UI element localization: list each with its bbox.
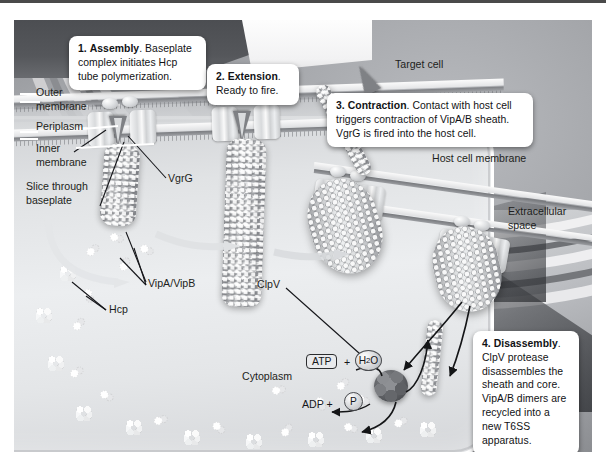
label-hcp: Hcp [109, 303, 128, 317]
label-inner-membrane: Inner membrane [36, 142, 87, 169]
vgrg-spike-highlight [238, 113, 246, 139]
callout-disassembly: 4. Disassembly. ClpV protease disassembl… [473, 331, 579, 452]
hcp-hexamer [420, 422, 436, 437]
hcp-tube-short [99, 143, 141, 227]
label-vgrg: VgrG [168, 172, 193, 186]
hcp-hexamer [36, 308, 52, 323]
clpv-protease [374, 370, 408, 402]
water-token: H2O [355, 350, 382, 371]
label-target-cell: Target cell [395, 58, 443, 72]
phosphate-token: P [344, 392, 363, 411]
label-host-cell-membrane: Host cell membrane [432, 152, 526, 166]
baseplate-wing-right [129, 110, 156, 145]
label-outer-membrane: Outer membrane [36, 86, 87, 113]
plus-sign-1: + [344, 356, 350, 368]
label-slice-through-baseplate: Slice through baseplate [26, 180, 88, 207]
callout-contraction-heading: Contraction [348, 100, 407, 111]
callout-extension: 2. Extension. Ready to fire. [207, 64, 299, 105]
baseplate-knob [122, 96, 138, 107]
callout-extension-number: 2. [216, 71, 225, 82]
hcp-hexamer [126, 420, 142, 435]
water-o: O [370, 355, 378, 366]
hcp-hexamer [76, 406, 92, 421]
hcp-hexamer [184, 430, 200, 445]
label-extracellular-space: Extracellular space [508, 205, 566, 232]
atp-token: ATP [306, 354, 337, 369]
callout-contraction: 3. Contraction. Contact with host cell t… [327, 93, 533, 147]
baseplate-wing-right [253, 105, 280, 140]
hcp-hexamer [60, 266, 76, 281]
adp-label: ADP + [302, 398, 333, 410]
callout-disassembly-number: 4. [482, 338, 491, 349]
hcp-hexamer [246, 434, 262, 449]
label-periplasm: Periplasm [36, 120, 83, 134]
top-rule [0, 0, 606, 3]
callout-assembly-heading: Assembly [90, 43, 140, 54]
illustration-plate: Outer membrane Periplasm Inner membrane … [14, 20, 592, 452]
baseplate-knob [330, 166, 346, 177]
label-cytoplasm: Cytoplasm [242, 370, 292, 384]
baseplate-knob [102, 98, 118, 109]
hcp-hexamer [308, 432, 324, 447]
callout-assembly: 1. Assembly. Baseplate complex initiates… [69, 36, 206, 90]
label-vipa-vipb: VipA/VipB [148, 277, 195, 291]
callout-disassembly-body: . ClpV protease disassembles the sheath … [482, 338, 566, 446]
callout-contraction-number: 3. [336, 100, 345, 111]
callout-extension-heading: Extension [228, 71, 278, 82]
hcp-hexamer [366, 428, 382, 443]
label-clpv: ClpV [257, 278, 280, 292]
callout-assembly-number: 1. [78, 43, 87, 54]
t6ss-figure: Outer membrane Periplasm Inner membrane … [0, 0, 606, 465]
hcp-hexamer [48, 356, 64, 371]
callout-disassembly-heading: Disassembly [494, 338, 558, 349]
tube-subunit-texture [99, 143, 141, 227]
vgrg-spike-highlight [114, 118, 122, 144]
water-h: H [359, 355, 366, 366]
